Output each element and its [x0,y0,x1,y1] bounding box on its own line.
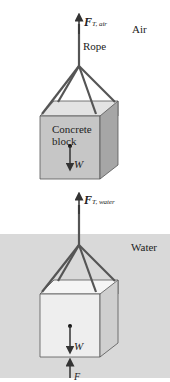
medium-label-air: Air [132,24,147,35]
tension-label-water: FT, water [84,194,115,206]
air-rope [42,24,115,114]
block-label-line1: Concrete [52,124,92,135]
rope-label: Rope [83,41,106,52]
weight-label-air: W [74,159,83,170]
buoyant-label: F [74,372,80,382]
tension-label-air: FT, air [84,16,107,28]
block-label-line2: block [52,136,76,147]
medium-label-water: Water [131,242,157,253]
weight-label-water: W [74,341,83,352]
water-rope [42,205,115,292]
